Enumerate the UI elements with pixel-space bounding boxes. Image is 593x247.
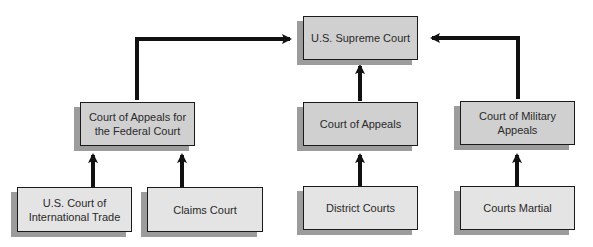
node-label: Court of Appeals xyxy=(320,117,401,131)
node-label: Court of Military Appeals xyxy=(467,109,568,137)
node-court-of-appeals-federal: Court of Appeals for the Federal Court xyxy=(80,102,195,146)
arrow-military-to-supreme xyxy=(432,38,518,99)
node-label: District Courts xyxy=(326,201,395,215)
node-label: Court of Appeals for the Federal Court xyxy=(87,110,188,138)
node-claims-court: Claims Court xyxy=(147,187,263,232)
node-us-supreme-court: U.S. Supreme Court xyxy=(303,16,418,60)
node-court-of-military-appeals: Court of Military Appeals xyxy=(460,101,575,145)
node-label: U.S. Court of International Trade xyxy=(24,196,125,224)
node-district-courts: District Courts xyxy=(303,186,418,230)
arrow-federal-to-supreme xyxy=(137,39,290,100)
node-label: Courts Martial xyxy=(483,201,551,215)
node-courts-martial: Courts Martial xyxy=(460,186,575,230)
node-court-of-appeals: Court of Appeals xyxy=(303,102,418,146)
node-court-of-international-trade: U.S. Court of International Trade xyxy=(17,187,132,232)
node-label: Claims Court xyxy=(173,203,237,217)
node-label: U.S. Supreme Court xyxy=(311,31,410,45)
